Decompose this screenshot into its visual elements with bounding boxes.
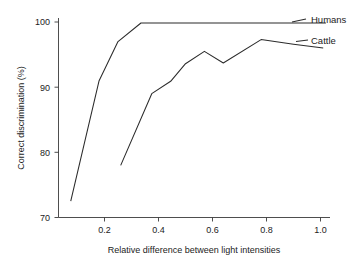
y-axis-title: Correct discrimination (%) xyxy=(16,66,26,170)
plot-canvas: 100 90 80 70 0.2 0.4 0.6 0.8 1.0 Relativ… xyxy=(0,0,349,268)
y-tick-label-90: 90 xyxy=(40,83,50,93)
line-chart-figure: 100 90 80 70 0.2 0.4 0.6 0.8 1.0 Relativ… xyxy=(0,0,349,268)
x-tick-label-1.0: 1.0 xyxy=(314,225,327,235)
x-axis-title: Relative difference between light intens… xyxy=(108,245,281,255)
series-label-humans: Humans xyxy=(311,14,347,25)
x-tick-label-0.4: 0.4 xyxy=(152,225,165,235)
leader-line-humans xyxy=(292,19,306,22)
leader-line-cattle xyxy=(296,40,308,42)
series-label-cattle: Cattle xyxy=(311,35,336,46)
y-tick-label-70: 70 xyxy=(40,213,50,223)
y-tick-label-100: 100 xyxy=(35,17,50,27)
y-tick-label-80: 80 xyxy=(40,148,50,158)
series-line-humans xyxy=(71,23,326,201)
x-tick-label-0.8: 0.8 xyxy=(260,225,273,235)
x-tick-label-0.6: 0.6 xyxy=(206,225,219,235)
series-line-cattle xyxy=(121,40,324,166)
x-tick-label-0.2: 0.2 xyxy=(98,225,111,235)
